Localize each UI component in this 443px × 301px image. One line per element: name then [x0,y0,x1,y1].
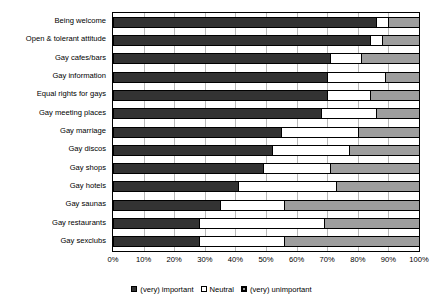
plot-area [112,12,420,252]
bar-segment-unimportant [370,90,420,101]
category-label: Being welcome [0,17,106,25]
category-label: Gay discos [0,145,106,153]
x-axis-tick-labels: 0%10%20%30%40%50%60%70%80%90%100% [112,255,420,267]
bar-row [113,145,419,156]
bar-segment-neutral [327,90,371,101]
bar-segment-important [113,200,221,211]
bar-segment-unimportant [385,72,420,83]
category-label: Gay cafes/bars [0,54,106,62]
bar-series-container [113,13,419,251]
bar-segment-neutral [238,181,337,192]
x-tick-label: 60% [289,255,304,264]
bar-segment-unimportant [361,53,420,64]
bar-segment-unimportant [388,17,420,28]
legend-label: (very) important [140,285,193,294]
bar-segment-unimportant [358,127,420,138]
bar-segment-important [113,181,239,192]
category-label: Gay sexclubs [0,237,106,245]
x-tick-label: 80% [350,255,365,264]
bar-segment-important [113,218,200,229]
stacked-bar-chart: Being welcomeOpen & tolerant attitudeGay… [0,0,443,301]
x-tick-label: 90% [381,255,396,264]
bar-row [113,218,419,229]
bar-row [113,17,419,28]
legend-item: Neutral [201,285,234,294]
bar-row [113,236,419,247]
bar-segment-neutral [327,72,386,83]
bar-segment-important [113,90,328,101]
bar-segment-important [113,35,371,46]
x-tick-label: 40% [228,255,243,264]
category-label: Gay hotels [0,182,106,190]
bar-segment-important [113,127,282,138]
bar-segment-neutral [376,17,389,28]
x-tick-label: 70% [320,255,335,264]
bar-row [113,181,419,192]
bar-row [113,72,419,83]
category-label: Gay saunas [0,200,106,208]
bar-segment-neutral [199,218,325,229]
bar-segment-unimportant [349,145,420,156]
chart-legend: (very) importantNeutral(very) unimportan… [0,282,443,296]
category-label: Gay information [0,72,106,80]
category-label: Gay meeting places [0,109,106,117]
category-label: Gay restaurants [0,219,106,227]
legend-item: (very) unimportant [241,285,312,294]
x-tick-label: 20% [167,255,182,264]
category-label: Open & tolerant attitude [0,35,106,43]
legend-label: (very) unimportant [250,285,312,294]
category-label: Gay shops [0,164,106,172]
bar-row [113,127,419,138]
category-label: Gay marriage [0,127,106,135]
bar-row [113,35,419,46]
x-tick-label: 30% [197,255,212,264]
bar-segment-unimportant [330,163,420,174]
bar-segment-unimportant [382,35,420,46]
bar-segment-important [113,163,264,174]
bar-segment-neutral [370,35,383,46]
bar-segment-important [113,72,328,83]
bar-segment-unimportant [336,181,420,192]
bar-segment-unimportant [284,200,420,211]
legend-swatch-icon [241,286,247,292]
bar-segment-unimportant [284,236,420,247]
x-tick-label: 10% [136,255,151,264]
category-axis: Being welcomeOpen & tolerant attitudeGay… [0,12,110,252]
x-tick-label: 100% [409,255,428,264]
bar-segment-neutral [272,145,350,156]
bar-segment-important [113,53,331,64]
bar-segment-unimportant [376,108,420,119]
bar-segment-neutral [220,200,285,211]
bar-segment-neutral [199,236,286,247]
legend-swatch-icon [131,286,137,292]
legend-swatch-icon [201,286,207,292]
bar-row [113,90,419,101]
legend-item: (very) important [131,285,193,294]
bar-segment-unimportant [324,218,420,229]
legend-label: Neutral [210,285,234,294]
bar-segment-neutral [330,53,362,64]
bar-segment-important [113,145,273,156]
bar-segment-important [113,17,377,28]
category-label: Equal rights for gays [0,90,106,98]
bar-segment-neutral [321,108,377,119]
bar-segment-neutral [263,163,331,174]
bar-segment-important [113,108,322,119]
bar-row [113,53,419,64]
bar-row [113,163,419,174]
x-tick-label: 0% [108,255,119,264]
bar-segment-important [113,236,200,247]
x-tick-label: 50% [258,255,273,264]
bar-row [113,200,419,211]
bar-segment-neutral [281,127,359,138]
bar-row [113,108,419,119]
